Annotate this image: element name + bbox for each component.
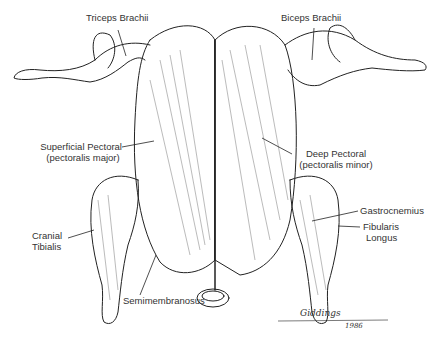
label-longus: Longus [366,232,397,243]
superficial-pectoral-shape [134,26,215,273]
label-cranial: Cranial [32,230,62,241]
label-superficial-pectoral: Superficial Pectoral [34,141,122,152]
label-deep-pectoral: Deep Pectoral [296,148,376,159]
label-fibularis: Fibularis [363,221,399,232]
signature-year: 1986 [345,322,363,330]
right-arm-shape [285,31,426,86]
label-pectoralis-minor: (pectoralis minor) [292,159,380,170]
right-leg-shape [290,176,339,323]
label-tibialis: Tibialis [32,241,61,252]
label-gastrocnemius: Gastrocnemius [360,205,424,216]
deep-pectoral-shape [215,26,296,275]
left-arm-shape [14,43,150,82]
label-semimembranosus: Semimembranosus [123,295,205,306]
label-biceps-brachii: Biceps Brachii [281,12,341,23]
label-triceps-brachii: Triceps Brachii [86,12,148,23]
label-pectoralis-major: (pectoralis major) [44,152,122,163]
signature-name: Giddings [300,308,341,318]
frog-muscle-illustration [0,0,430,342]
